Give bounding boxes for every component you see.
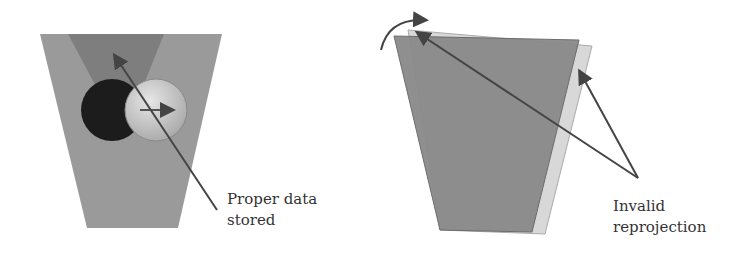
proper-data-label-line1: Proper data [227,189,317,210]
right-frustum-group [381,20,638,234]
left-frustum-group [40,34,222,228]
proper-data-label: Proper data stored [227,189,317,231]
diagram-canvas: Proper data stored Invalid reprojection [0,0,749,254]
invalid-label-line1: Invalid [613,196,706,217]
right-pointer-arrow-2 [580,72,638,178]
proper-data-label-line2: stored [227,210,317,231]
invalid-reprojection-label: Invalid reprojection [613,196,706,238]
invalid-label-line2: reprojection [613,217,706,238]
